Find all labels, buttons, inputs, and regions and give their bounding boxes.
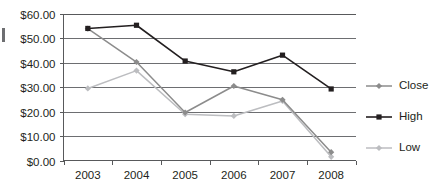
series-close xyxy=(85,26,335,156)
x-axis-tick-label: 2003 xyxy=(75,169,101,181)
y-axis-tick-label: $60.00 xyxy=(20,9,55,21)
series-line-close xyxy=(88,29,331,152)
data-point-low-2006 xyxy=(231,113,237,119)
data-point-high-2005 xyxy=(183,58,188,63)
x-axis-ticks xyxy=(65,161,357,165)
data-point-close-2006 xyxy=(231,83,237,89)
data-point-high-2008 xyxy=(329,86,334,91)
y-axis-tick-label: $10.00 xyxy=(20,131,55,143)
series-high xyxy=(85,23,334,92)
series-line-high xyxy=(88,25,331,89)
legend-marker-low xyxy=(376,145,382,151)
data-point-high-2007 xyxy=(280,53,285,58)
legend-label-high: High xyxy=(399,110,423,122)
legend-label-close: Close xyxy=(399,79,428,91)
data-point-low-2003 xyxy=(85,85,91,91)
series-layer xyxy=(85,23,335,160)
chart-container: $0.00$10.00$20.00$30.00$40.00$50.00$60.0… xyxy=(0,0,440,191)
y-axis-tick-label: $50.00 xyxy=(20,33,55,45)
legend-item-high[interactable]: High xyxy=(366,110,423,122)
y-axis-tick-label: $30.00 xyxy=(20,82,55,94)
x-axis-tick-label: 2004 xyxy=(124,169,150,181)
y-axis-tick-label: $20.00 xyxy=(20,107,55,119)
legend-item-close[interactable]: Close xyxy=(366,79,428,91)
line-chart: $0.00$10.00$20.00$30.00$40.00$50.00$60.0… xyxy=(0,0,440,191)
y-axis-tick-label: $40.00 xyxy=(20,58,55,70)
legend-marker-high xyxy=(376,114,381,119)
x-axis-tick-label: 2008 xyxy=(318,169,344,181)
x-axis-tick-label: 2006 xyxy=(221,169,247,181)
chart-legend: CloseHighLow xyxy=(366,79,428,153)
y-axis-tick-labels: $0.00$10.00$20.00$30.00$40.00$50.00$60.0… xyxy=(20,9,55,168)
data-point-high-2004 xyxy=(134,23,139,28)
data-point-high-2006 xyxy=(231,69,236,74)
legend-label-low: Low xyxy=(399,141,421,153)
data-point-high-2003 xyxy=(85,26,90,31)
left-edge-artifact xyxy=(2,28,5,42)
legend-marker-close xyxy=(376,83,382,89)
series-low xyxy=(85,67,335,159)
x-axis-tick-label: 2007 xyxy=(270,169,296,181)
x-axis-tick-label: 2005 xyxy=(172,169,198,181)
y-axis-tick-label: $0.00 xyxy=(27,156,56,168)
x-axis-tick-labels: 200320042005200620072008 xyxy=(75,169,344,181)
legend-item-low[interactable]: Low xyxy=(366,141,421,153)
